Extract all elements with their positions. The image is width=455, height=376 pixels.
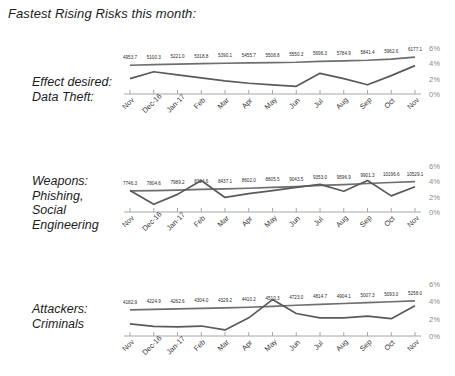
x-axis-tick-label: Feb <box>192 214 207 229</box>
y-axis-tick-label: 2% <box>429 75 440 84</box>
chart-row-label-data-theft: Effect desired: Data Theft: <box>32 75 112 104</box>
data-point-label: 5455.7 <box>242 53 256 58</box>
x-axis-tick-label: Jul <box>312 96 325 109</box>
data-point-label: 5221.0 <box>170 54 184 59</box>
x-axis-tick-label: May <box>263 337 279 353</box>
data-point-label: 5550.3 <box>289 52 303 57</box>
x-axis-tick-label: Sep <box>358 337 374 353</box>
chart-row-label-line: Social <box>32 203 99 218</box>
x-axis-tick-label: Nov <box>405 213 421 229</box>
data-point-label: 5784.9 <box>337 51 351 56</box>
chart-row-label-line: Attackers: <box>32 302 88 317</box>
x-axis-tick-label: Dec-16 <box>140 334 163 357</box>
y-axis-tick-label: 6% <box>429 280 440 289</box>
x-axis-tick-label: Oct <box>382 214 396 228</box>
data-point-label: 8602.0 <box>242 178 256 183</box>
chart-row-label-line: Effect desired: <box>32 75 112 90</box>
data-point-label: 9043.5 <box>289 177 303 182</box>
y-axis-tick-label: 4% <box>429 297 440 306</box>
x-axis-tick-label: Nov <box>405 337 421 353</box>
data-point-label: 4329.2 <box>218 298 232 303</box>
x-axis-tick-label: Mar <box>216 337 232 353</box>
data-point-label: 4224.9 <box>147 299 161 304</box>
data-point-label: 8805.5 <box>265 177 279 182</box>
data-point-label: 9596.9 <box>337 175 351 180</box>
y-axis-tick-label: 6% <box>429 44 440 53</box>
x-axis-tick-label: Nov <box>120 213 136 229</box>
data-point-label: 9353.0 <box>313 175 327 180</box>
x-axis-tick-label: Nov <box>405 95 421 111</box>
data-point-label: 5007.3 <box>360 293 374 298</box>
chart-row-label-weapons: Weapons: Phishing, Social Engineering <box>32 174 99 232</box>
data-point-label: 4262.6 <box>170 299 184 304</box>
chart-panel-attackers: Attackers: Criminals 6%4%2%0%NovDec-16Ja… <box>0 258 455 376</box>
data-point-label: 5841.4 <box>360 50 374 55</box>
data-point-label: 4410.2 <box>242 297 256 302</box>
x-axis-tick-label: May <box>263 95 279 111</box>
chart-row-label-line: Data Theft: <box>32 90 112 105</box>
x-axis-tick-label: Mar <box>216 95 232 111</box>
x-axis-tick-label: Jun <box>287 214 302 229</box>
data-point-label: 4182.9 <box>123 300 137 305</box>
data-point-label: 7746.3 <box>123 181 137 186</box>
chart-panel-data-theft: Effect desired: Data Theft: 6%4%2%0%NovD… <box>0 22 455 134</box>
data-point-label: 5093.0 <box>384 292 398 297</box>
data-point-label: 6177.1 <box>408 47 422 52</box>
data-point-label: 10529.1 <box>407 172 424 177</box>
x-axis-tick-label: Apr <box>240 214 255 229</box>
x-axis-tick-label: Apr <box>240 96 255 111</box>
x-axis-tick-label: Jun <box>287 96 302 111</box>
y-axis-tick-label: 0% <box>429 332 440 341</box>
page-title: Fastest Rising Risks this month: <box>8 6 196 21</box>
x-axis-tick-label: Aug <box>334 213 350 229</box>
line-chart-data-theft: 6%4%2%0%NovDec-16Jan-17FebMarAprMayJunJu… <box>118 22 455 134</box>
data-point-label: 4723.0 <box>289 295 303 300</box>
data-point-label: 5100.3 <box>147 55 161 60</box>
data-point-label: 5318.8 <box>194 54 208 59</box>
data-point-label: 5390.1 <box>218 53 232 58</box>
x-axis-tick-label: Dec-16 <box>140 210 163 233</box>
chart-row-label-line: Engineering <box>32 218 99 233</box>
x-axis-tick-label: Jan-17 <box>165 210 187 232</box>
x-axis-tick-label: Mar <box>216 213 232 229</box>
data-point-label: 5696.3 <box>313 51 327 56</box>
data-point-label: 5962.6 <box>384 49 398 54</box>
x-axis-tick-label: Oct <box>382 338 396 352</box>
x-axis-tick-label: Aug <box>334 95 350 111</box>
chart-panel-weapons: Weapons: Phishing, Social Engineering 6%… <box>0 140 455 252</box>
x-axis-tick-label: Nov <box>120 95 136 111</box>
percent-line-series <box>130 66 415 87</box>
x-axis-tick-label: Apr <box>240 338 255 353</box>
data-point-label: 7804.6 <box>147 181 161 186</box>
chart-row-label-attackers: Attackers: Criminals <box>32 302 88 331</box>
y-axis-tick-label: 4% <box>429 177 440 186</box>
x-axis-tick-label: Oct <box>382 96 396 110</box>
x-axis-tick-label: Jul <box>312 338 325 351</box>
x-axis-tick-label: Feb <box>192 96 207 111</box>
x-axis-tick-label: May <box>263 213 279 229</box>
data-point-label: 8437.1 <box>218 179 232 184</box>
x-axis-tick-label: Aug <box>334 337 350 353</box>
x-axis-tick-label: Jul <box>312 214 325 227</box>
data-point-label: 9901.3 <box>360 173 374 178</box>
x-axis-tick-label: Nov <box>120 337 136 353</box>
chart-row-label-line: Criminals <box>32 317 88 332</box>
x-axis-tick-label: Jan-17 <box>165 334 187 356</box>
y-axis-tick-label: 0% <box>429 90 440 99</box>
y-axis-tick-label: 6% <box>429 162 440 171</box>
y-axis-tick-label: 4% <box>429 59 440 68</box>
y-axis-tick-label: 2% <box>429 315 440 324</box>
chart-row-label-line: Phishing, <box>32 189 99 204</box>
x-axis-tick-label: Feb <box>192 338 207 353</box>
y-axis-tick-label: 2% <box>429 193 440 202</box>
line-chart-attackers: 6%4%2%0%NovDec-16Jan-17FebMarAprMayJunJu… <box>118 258 455 376</box>
x-axis-tick-label: Dec-16 <box>140 92 163 115</box>
data-point-label: 10196.6 <box>383 172 400 177</box>
x-axis-tick-label: Jan-17 <box>165 92 187 114</box>
data-point-label: 5508.8 <box>265 53 279 58</box>
data-point-label: 4814.7 <box>313 294 327 299</box>
x-axis-tick-label: Sep <box>358 213 374 229</box>
x-axis-tick-label: Jun <box>287 338 302 353</box>
data-point-label: 4904.1 <box>337 294 351 299</box>
line-chart-weapons: 6%4%2%0%NovDec-16Jan-17FebMarAprMayJunJu… <box>118 140 455 252</box>
